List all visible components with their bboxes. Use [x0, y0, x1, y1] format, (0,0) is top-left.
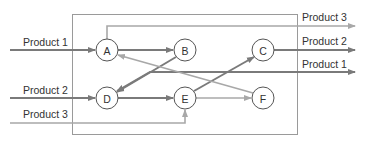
output-product-1: Product 1 — [117, 58, 355, 91]
input-product-1-label: Product 1 — [23, 36, 68, 48]
node-f-label: F — [260, 93, 266, 105]
output-product-2-label: Product 2 — [302, 35, 347, 47]
edge-e-to-c — [194, 57, 254, 91]
node-d: D — [96, 87, 118, 109]
input-product-2: Product 2 — [10, 84, 95, 98]
output-product-2: Product 2 — [274, 35, 355, 50]
node-c-label: C — [259, 45, 267, 57]
input-product-2-label: Product 2 — [23, 84, 68, 96]
output-product-1-label: Product 1 — [302, 58, 347, 70]
input-product-1: Product 1 — [10, 36, 95, 50]
input-product-3-label: Product 3 — [23, 108, 68, 120]
node-b: B — [174, 39, 196, 61]
node-b-label: B — [181, 45, 188, 57]
node-c: C — [252, 39, 274, 61]
node-a-label: A — [103, 45, 110, 57]
node-f: F — [252, 87, 274, 109]
node-e-label: E — [181, 93, 188, 105]
process-flow-diagram: Product 1 Product 2 Product 3 Product 3 … — [0, 0, 369, 145]
node-d-label: D — [103, 93, 111, 105]
node-a: A — [96, 39, 118, 61]
output-product-3-label: Product 3 — [302, 11, 347, 23]
input-product-3: Product 3 — [10, 108, 185, 123]
node-e: E — [174, 87, 196, 109]
